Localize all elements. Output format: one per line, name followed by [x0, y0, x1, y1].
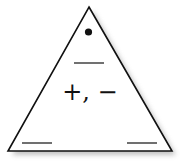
- operations-label: +, −: [60, 80, 120, 104]
- top-dot-icon: [85, 28, 92, 35]
